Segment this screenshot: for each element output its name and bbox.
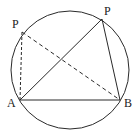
segment-a-p1	[20, 19, 102, 100]
segment-p1-b	[102, 19, 120, 100]
label-p2: P	[12, 17, 19, 31]
segment-p2-b-dashed	[22, 32, 120, 100]
label-b: B	[124, 96, 132, 110]
circle-diagram: A B P P	[0, 0, 138, 134]
label-a: A	[7, 96, 16, 110]
segment-a-p2-dashed	[20, 32, 22, 100]
circumcircle	[11, 11, 129, 129]
label-p1: P	[104, 4, 111, 18]
